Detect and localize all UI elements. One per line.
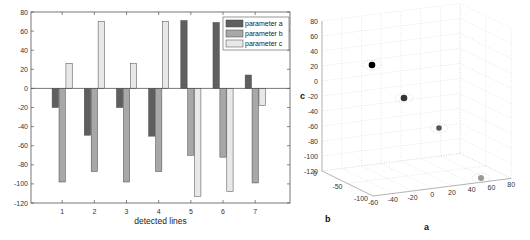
y-tick-label: -20: [18, 104, 28, 111]
grid-line: [322, 18, 460, 36]
a-tick-label: 40: [468, 186, 476, 193]
grid-line: [460, 138, 511, 163]
y-tick-label: -100: [14, 180, 28, 187]
bar-parameter-b: [156, 88, 162, 171]
c-tick-label: 0: [314, 78, 318, 85]
bar-parameter-a: [52, 88, 58, 107]
legend-swatch: [226, 40, 243, 47]
scatter-3d-chart: -120-100-80-60-40-20020406080-60-40-2002…: [300, 3, 515, 232]
grid-line: [342, 168, 393, 193]
b-axis-line: [322, 171, 373, 196]
bar-parameter-c: [162, 22, 168, 89]
bar-parameter-c: [98, 22, 104, 89]
y-tick-label: 80: [20, 9, 28, 16]
grid-line: [421, 158, 472, 183]
bar-parameter-a: [84, 88, 90, 135]
grid-line: [460, 123, 511, 148]
b-tick-label: 0: [313, 170, 317, 177]
x-tick-label: 4: [157, 208, 161, 215]
grid-line: [322, 63, 460, 81]
bar-parameter-b: [252, 88, 258, 183]
x-axis-label: detected lines: [134, 216, 186, 226]
grid-line: [460, 18, 511, 43]
bar-parameter-c: [195, 88, 201, 196]
c-tick-label: -80: [308, 138, 318, 145]
a-tick-label: 0: [430, 191, 434, 198]
x-tick-label: 7: [253, 208, 257, 215]
grid-line: [460, 78, 511, 103]
bar-parameter-c: [66, 64, 72, 89]
grid-line: [322, 138, 460, 156]
c-tick-label: 80: [310, 18, 318, 25]
c-tick-label: -100: [304, 153, 318, 160]
grid-line: [460, 63, 511, 88]
y-tick-label: -120: [14, 200, 28, 207]
bar-parameter-b: [123, 88, 129, 182]
c-tick-label: -40: [308, 108, 318, 115]
c-axis-label: c: [300, 91, 305, 101]
y-tick-label: -60: [18, 142, 28, 149]
y-tick-label: 60: [20, 28, 28, 35]
bar-parameter-a: [149, 88, 155, 136]
y-tick-label: 0: [24, 85, 28, 92]
bar-parameter-b: [188, 88, 194, 155]
a-tick-label: -20: [407, 194, 417, 201]
bar-parameter-a: [213, 23, 219, 89]
a-tick-label: -60: [368, 199, 378, 206]
grid-line: [381, 163, 432, 188]
grid-line: [401, 161, 452, 186]
grid-line: [322, 33, 460, 51]
a-tick-label: 80: [507, 181, 515, 188]
c-tick-label: 20: [310, 63, 318, 70]
bar-parameter-c: [259, 88, 265, 105]
scatter-point: [478, 175, 484, 181]
x-tick-label: 2: [92, 208, 96, 215]
grid-line: [322, 93, 460, 111]
legend-swatch: [226, 30, 243, 37]
y-tick-label: -80: [18, 161, 28, 168]
a-tick-label: 60: [488, 184, 496, 191]
grid-line: [348, 166, 486, 184]
legend-label: parameter c: [245, 40, 283, 48]
scatter-point: [401, 95, 408, 102]
c-tick-label: 60: [310, 33, 318, 40]
bar-parameter-c: [130, 64, 136, 89]
grid-line: [361, 166, 412, 191]
y-tick-label: -40: [18, 123, 28, 130]
grid-line: [322, 3, 460, 21]
bar-parameter-b: [59, 88, 65, 182]
grid-line: [460, 108, 511, 133]
b-tick-label: -50: [332, 183, 342, 190]
y-tick-label: 20: [20, 66, 28, 73]
b-tick-label: -100: [354, 195, 368, 202]
y-tick-label: 40: [20, 47, 28, 54]
grid-line: [460, 3, 511, 28]
b-axis-label: b: [325, 214, 331, 224]
grid-line: [322, 48, 460, 66]
a-tick-label: -40: [388, 196, 398, 203]
scatter-point: [436, 125, 442, 131]
a-axis-label: a: [424, 222, 430, 232]
c-tick-label: 40: [310, 48, 318, 55]
bar-parameter-a: [181, 21, 187, 89]
bar-chart: -120-100-80-60-40-200204060801234567dete…: [14, 9, 290, 227]
legend-label: parameter b: [245, 30, 283, 38]
grid-line: [322, 78, 460, 96]
x-tick-label: 5: [189, 208, 193, 215]
bar-parameter-a: [245, 75, 251, 88]
x-tick-label: 3: [125, 208, 129, 215]
bar-parameter-b: [220, 88, 226, 157]
a-tick-label: 20: [448, 189, 456, 196]
legend-swatch: [226, 20, 243, 27]
x-tick-label: 1: [60, 208, 64, 215]
grid-line: [460, 93, 511, 118]
bar-parameter-a: [116, 88, 122, 107]
c-tick-label: -60: [308, 123, 318, 130]
grid-line: [460, 48, 511, 73]
x-tick-label: 6: [221, 208, 225, 215]
c-tick-label: -20: [308, 93, 318, 100]
grid-line: [460, 33, 511, 58]
scatter-point: [369, 62, 376, 69]
bar-parameter-c: [227, 88, 233, 191]
figure: -120-100-80-60-40-200204060801234567dete…: [0, 0, 530, 240]
